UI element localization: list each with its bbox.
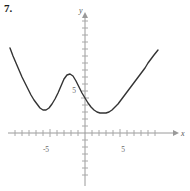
x-tick-label-5: 5 [121,145,125,154]
x-tick-label-neg5: -5 [43,145,49,154]
function-curve [10,48,158,113]
y-axis-arrow-icon [82,12,88,18]
x-axis-arrow-icon [173,130,179,136]
y-axis-label: y [78,6,83,15]
y-tick-label-5: 5 [72,86,76,95]
x-axis-label: x [180,129,185,138]
figure-container: 7. y x 5 -5 5 [0,0,190,191]
coordinate-plot: y x 5 -5 5 [0,0,190,191]
